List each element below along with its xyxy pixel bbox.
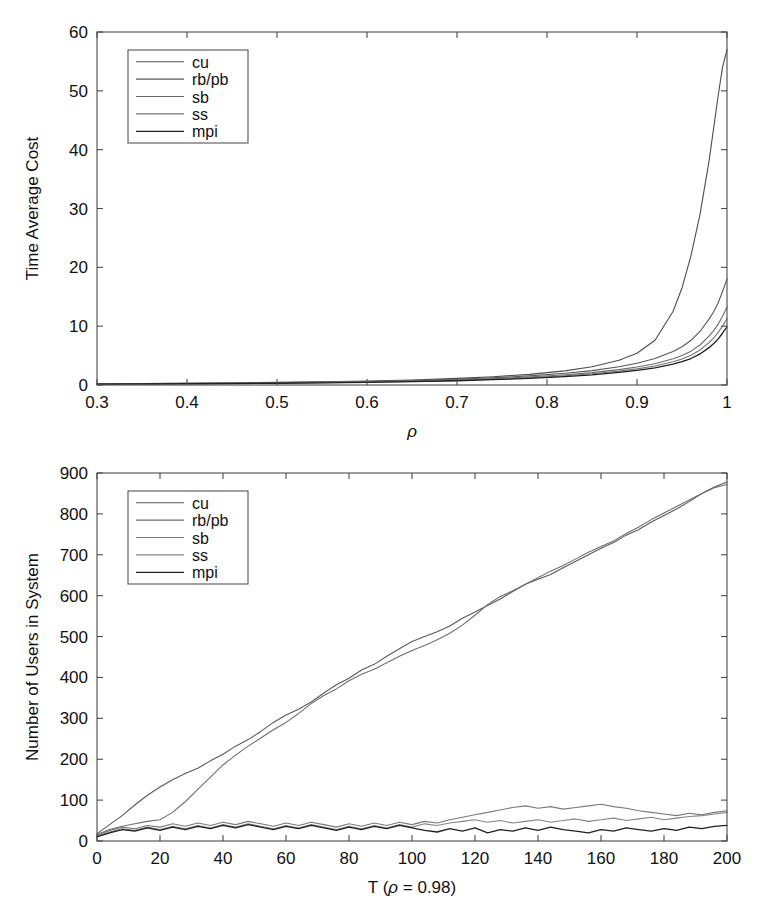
number-of-users-in-system-yticklabel: 600: [60, 587, 88, 606]
time-average-cost-yticklabel: 40: [69, 141, 88, 160]
number-of-users-in-system-xticklabel: 100: [398, 849, 426, 868]
time-average-cost-xticklabel: 0.9: [625, 393, 649, 412]
number-of-users-in-system-yticklabel: 700: [60, 546, 88, 565]
time-average-cost-xticklabel: 0.3: [85, 393, 109, 412]
number-of-users-in-system-xticklabel: 80: [340, 849, 359, 868]
number-of-users-in-system-legend: curb/pbsbssmpi: [128, 491, 248, 584]
time-average-cost-legend: curb/pbsbssmpi: [128, 50, 248, 143]
time-average-cost-yticklabel: 0: [79, 376, 88, 395]
time-average-cost-yticklabel: 30: [69, 200, 88, 219]
time-average-cost-xticklabel: 1: [722, 393, 731, 412]
number-of-users-in-system-legend-label-sb: sb: [192, 530, 209, 547]
number-of-users-in-system-yaxis-label: Number of Users in System: [23, 553, 42, 761]
time-average-cost-xticklabel: 0.6: [355, 393, 379, 412]
time-average-cost-xticklabel: 0.8: [535, 393, 559, 412]
number-of-users-in-system-legend-label-cu: cu: [192, 495, 209, 512]
number-of-users-in-system-xticklabel: 120: [461, 849, 489, 868]
number-of-users-in-system-yticklabel: 400: [60, 668, 88, 687]
time-average-cost-legend-label-rb-pb: rb/pb: [192, 71, 229, 88]
number-of-users-in-system-xticklabel: 0: [92, 849, 101, 868]
figure-container: 0.30.40.50.60.70.80.910102030405060ρTime…: [0, 0, 760, 918]
number-of-users-in-system-xticklabel: 180: [650, 849, 678, 868]
number-of-users-in-system-yticklabel: 300: [60, 709, 88, 728]
number-of-users-in-system-xticklabel: 20: [151, 849, 170, 868]
number-of-users-in-system-legend-label-ss: ss: [192, 547, 208, 564]
time-average-cost-yaxis-label: Time Average Cost: [23, 136, 42, 280]
time-average-cost-xticklabel: 0.4: [175, 393, 199, 412]
time-average-cost-xticklabel: 0.5: [265, 393, 289, 412]
number-of-users-in-system-xaxis-label: T (ρ = 0.98): [368, 878, 456, 897]
number-of-users-in-system-yticklabel: 900: [60, 464, 88, 483]
rho-symbol: ρ: [387, 878, 398, 897]
number-of-users-chart: 0204060801001201401601802000100200300400…: [0, 440, 760, 918]
number-of-users-in-system-xticklabel: 200: [713, 849, 741, 868]
number-of-users-in-system-xticklabel: 40: [214, 849, 233, 868]
number-of-users-in-system-yticklabel: 0: [79, 832, 88, 851]
xaxis-label-pre: T (: [368, 878, 389, 897]
time-average-cost-legend-label-mpi: mpi: [192, 123, 218, 140]
number-of-users-in-system-xticklabel: 140: [524, 849, 552, 868]
number-of-users-in-system-yticklabel: 800: [60, 505, 88, 524]
number-of-users-in-system-xticklabel: 60: [277, 849, 296, 868]
time-average-cost-chart: 0.30.40.50.60.70.80.910102030405060ρTime…: [0, 0, 760, 455]
number-of-users-in-system-yticklabel: 500: [60, 628, 88, 647]
time-average-cost-yticklabel: 10: [69, 317, 88, 336]
time-average-cost-xticklabel: 0.7: [445, 393, 469, 412]
time-average-cost-yticklabel: 20: [69, 258, 88, 277]
time-average-cost-yticklabel: 50: [69, 82, 88, 101]
time-average-cost-yticklabel: 60: [69, 23, 88, 42]
number-of-users-in-system-legend-label-rb-pb: rb/pb: [192, 512, 229, 529]
number-of-users-in-system-yticklabel: 200: [60, 750, 88, 769]
number-of-users-in-system-legend-label-mpi: mpi: [192, 564, 218, 581]
number-of-users-in-system-xticklabel: 160: [587, 849, 615, 868]
time-average-cost-legend-label-ss: ss: [192, 106, 208, 123]
number-of-users-in-system-yticklabel: 100: [60, 791, 88, 810]
time-average-cost-series-ss: [97, 319, 727, 385]
time-average-cost-xaxis-label: ρ: [406, 422, 417, 441]
xaxis-label-post: = 0.98): [398, 878, 456, 897]
time-average-cost-legend-label-cu: cu: [192, 54, 209, 71]
time-average-cost-legend-label-sb: sb: [192, 89, 209, 106]
time-average-cost-series-sb: [97, 307, 727, 384]
chart-panel-number-of-users: 0204060801001201401601802000100200300400…: [0, 440, 760, 918]
chart-panel-time-average-cost: 0.30.40.50.60.70.80.910102030405060ρTime…: [0, 0, 760, 455]
